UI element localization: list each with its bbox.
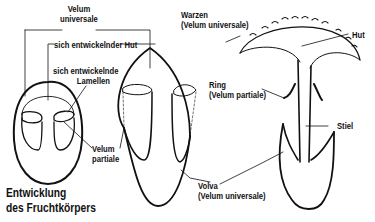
emerging-stage <box>118 48 196 206</box>
label-volva: Volva (Velum universale) <box>198 181 266 201</box>
fruiting-body-development-diagram: Velum universale sich entwickelnder Hut … <box>0 0 375 222</box>
label-line: partiale <box>92 154 119 164</box>
label-ring: Ring (Velum partiale) <box>209 80 266 100</box>
label-line: Lamellen <box>53 76 118 86</box>
label-velum-partiale: Velum partiale <box>92 144 119 164</box>
title-line: Entwicklung <box>6 186 96 201</box>
label-velum-universale: Velum universale <box>60 4 98 24</box>
label-line: sich entwickelnde <box>53 66 118 76</box>
diagram-title: Entwicklung des Fruchtkörpers <box>6 186 96 216</box>
label-line: Volva <box>198 181 266 191</box>
label-line: Ring <box>209 80 266 90</box>
label-line: universale <box>60 14 98 24</box>
label-stiel: Stiel <box>337 121 353 131</box>
label-line: (Velum universale) <box>181 20 249 30</box>
label-line: Velum <box>60 4 98 14</box>
label-line: (Velum partiale) <box>209 90 266 100</box>
label-sich-entwickelnde-lamellen: sich entwickelnde Lamellen <box>53 66 118 86</box>
label-sich-entwickelnder-hut: sich entwickelnder Hut <box>54 40 137 50</box>
label-hut: Hut <box>352 30 365 40</box>
label-line: (Velum universale) <box>198 191 266 201</box>
egg-stage <box>14 82 82 184</box>
title-line: des Fruchtkörpers <box>6 201 96 216</box>
label-line: Warzen <box>181 10 249 20</box>
label-line: Velum <box>92 144 119 154</box>
label-warzen: Warzen (Velum universale) <box>181 10 249 30</box>
